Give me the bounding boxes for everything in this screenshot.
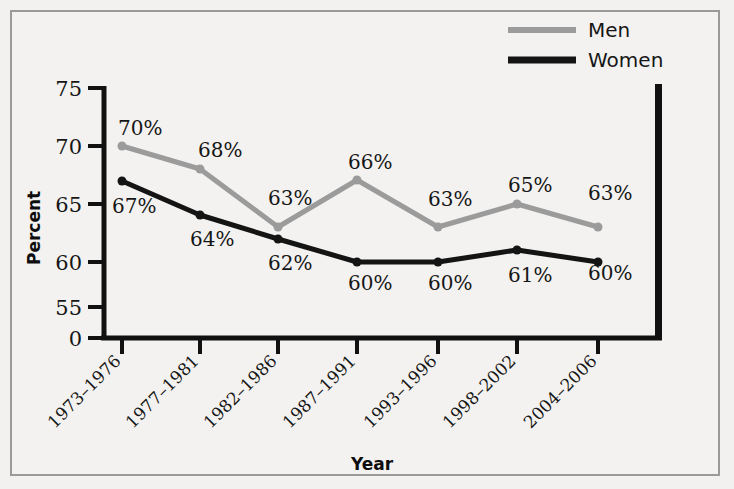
data-point-women-3 bbox=[353, 258, 362, 267]
y-axis: 75 70 65 60 55 0 Percent bbox=[24, 77, 104, 351]
y-tick-label-65: 65 bbox=[55, 193, 82, 217]
data-label-men-2: 63% bbox=[268, 186, 312, 210]
x-tick-label-4: 1993–1996 bbox=[359, 351, 440, 432]
data-label-women-4: 60% bbox=[428, 271, 472, 295]
data-point-men-1 bbox=[196, 165, 205, 174]
legend-label-women: Women bbox=[588, 48, 663, 72]
data-point-women-5 bbox=[513, 246, 522, 255]
data-label-women-6: 60% bbox=[588, 261, 632, 285]
data-label-women-3: 60% bbox=[348, 271, 392, 295]
x-tick-label-2: 1982–1986 bbox=[199, 351, 280, 432]
y-tick-label-60: 60 bbox=[55, 251, 82, 275]
data-point-men-2 bbox=[274, 223, 283, 232]
chart-page: 75 70 65 60 55 0 Percent 1973–1976 1977–… bbox=[0, 0, 734, 489]
x-tick-label-3: 1987–1991 bbox=[278, 351, 359, 432]
data-label-men-3: 66% bbox=[348, 150, 392, 174]
y-tick-label-70: 70 bbox=[55, 135, 82, 159]
line-chart: 75 70 65 60 55 0 Percent 1973–1976 1977–… bbox=[0, 0, 734, 489]
data-label-men-4: 63% bbox=[428, 187, 472, 211]
data-label-men-1: 68% bbox=[198, 138, 242, 162]
y-tick-label-75: 75 bbox=[55, 77, 82, 101]
data-label-men-0: 70% bbox=[118, 116, 162, 140]
data-point-women-1 bbox=[196, 211, 205, 220]
x-axis-title: Year bbox=[350, 454, 394, 474]
y-tick-label-0: 0 bbox=[69, 327, 82, 351]
data-label-women-1: 64% bbox=[190, 227, 234, 251]
data-point-men-6 bbox=[594, 223, 603, 232]
series-women: 67% 64% 62% 60% 60% 61% 60% bbox=[112, 177, 632, 296]
y-tick-label-55: 55 bbox=[55, 296, 82, 320]
data-point-women-2 bbox=[274, 235, 283, 244]
data-label-women-2: 62% bbox=[268, 251, 312, 275]
data-point-women-0 bbox=[118, 177, 127, 186]
data-point-men-3 bbox=[353, 176, 362, 185]
x-tick-label-1: 1977–1981 bbox=[121, 351, 202, 432]
data-point-men-5 bbox=[513, 200, 522, 209]
scan-artifact-vertical-bar bbox=[655, 84, 662, 340]
data-label-women-5: 61% bbox=[508, 263, 552, 287]
x-tick-label-0: 1973–1976 bbox=[43, 351, 124, 432]
data-point-men-0 bbox=[118, 142, 127, 151]
x-tick-label-6: 2004–2006 bbox=[519, 351, 600, 432]
data-label-women-0: 67% bbox=[112, 194, 156, 218]
data-label-men-6: 63% bbox=[588, 181, 632, 205]
chart-legend: Men Women bbox=[508, 18, 663, 72]
x-axis: 1973–1976 1977–1981 1982–1986 1987–1991 … bbox=[43, 338, 662, 474]
data-point-women-4 bbox=[434, 258, 443, 267]
data-point-men-4 bbox=[434, 223, 443, 232]
x-tick-label-5: 1998–2002 bbox=[438, 351, 519, 432]
y-axis-title: Percent bbox=[24, 191, 44, 265]
legend-label-men: Men bbox=[588, 18, 630, 42]
data-label-men-5: 65% bbox=[508, 173, 552, 197]
